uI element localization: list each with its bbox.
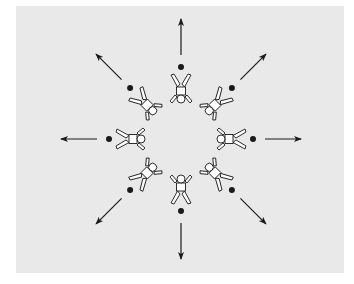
- direction-arrow-icon: [240, 54, 266, 80]
- player-group-north: [170, 19, 192, 103]
- player-figure-icon: [170, 175, 192, 204]
- player-figure-icon: [199, 85, 235, 121]
- ball-icon: [127, 85, 133, 91]
- player-figure-icon: [116, 128, 145, 150]
- direction-arrow-icon: [96, 198, 122, 224]
- player-group-south: [170, 175, 192, 259]
- player-group-south-east: [199, 157, 266, 224]
- player-group-north-west: [96, 54, 163, 121]
- ball-icon: [229, 85, 235, 91]
- ball-icon: [178, 208, 184, 214]
- player-group-north-east: [199, 54, 266, 121]
- formation-diagram: [0, 0, 354, 284]
- ball-icon: [229, 187, 235, 193]
- ball-icon: [178, 64, 184, 70]
- player-group-south-west: [96, 157, 163, 224]
- player-group-west: [61, 128, 145, 150]
- ball-icon: [106, 136, 112, 142]
- player-figure-icon: [170, 74, 192, 103]
- player-figure-icon: [199, 157, 235, 193]
- player-figure-icon: [127, 157, 163, 193]
- player-figure-icon: [127, 85, 163, 121]
- ball-icon: [127, 187, 133, 193]
- player-group-east: [217, 128, 301, 150]
- player-figure-icon: [217, 128, 246, 150]
- direction-arrow-icon: [240, 198, 266, 224]
- ball-icon: [250, 136, 256, 142]
- direction-arrow-icon: [96, 54, 122, 80]
